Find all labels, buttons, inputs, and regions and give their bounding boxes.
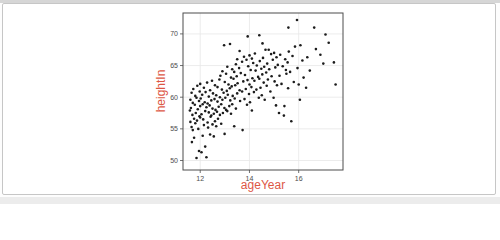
data-point: [248, 83, 251, 86]
data-point: [243, 98, 246, 101]
data-point: [334, 83, 337, 86]
data-point: [315, 48, 318, 51]
data-point: [195, 112, 198, 115]
data-point: [229, 87, 232, 90]
data-point: [293, 81, 296, 84]
data-point: [193, 136, 196, 139]
data-point: [277, 64, 280, 67]
data-point: [230, 112, 233, 115]
data-point: [221, 70, 224, 73]
data-point: [215, 125, 218, 128]
data-point: [210, 114, 213, 117]
data-point: [190, 126, 193, 129]
data-point: [219, 74, 222, 77]
data-point: [217, 117, 220, 120]
data-point: [216, 86, 219, 89]
data-point: [291, 55, 294, 58]
data-point: [254, 52, 257, 55]
x-axis-title: ageYear: [241, 178, 285, 192]
data-point: [253, 91, 256, 94]
data-point: [283, 114, 286, 117]
data-point: [276, 84, 279, 87]
data-point: [255, 88, 258, 91]
data-point: [210, 99, 213, 102]
data-point: [222, 112, 225, 115]
data-point: [272, 59, 275, 62]
data-point: [226, 110, 229, 113]
data-point: [278, 74, 281, 77]
data-point: [261, 73, 264, 76]
data-point: [238, 89, 241, 92]
data-point: [219, 96, 222, 99]
data-point: [264, 48, 267, 51]
data-point: [262, 57, 265, 60]
data-point: [269, 90, 272, 93]
data-point: [248, 54, 251, 57]
data-point: [206, 121, 209, 124]
data-point: [259, 60, 262, 63]
data-point: [223, 133, 226, 136]
data-point: [240, 72, 243, 75]
data-point: [198, 150, 201, 153]
data-point: [208, 104, 211, 107]
data-point: [200, 113, 203, 116]
data-point: [213, 135, 216, 138]
data-point: [206, 81, 209, 84]
data-point: [313, 26, 316, 29]
data-point: [231, 95, 234, 98]
data-point: [238, 50, 241, 53]
data-point: [233, 125, 236, 128]
y-axis-title: heightIn: [154, 70, 168, 113]
data-point: [286, 61, 289, 64]
data-point: [192, 129, 195, 132]
data-point: [309, 69, 312, 72]
y-tick-label: 70: [170, 30, 178, 37]
data-point: [284, 58, 287, 61]
data-point: [234, 84, 237, 87]
data-point: [235, 63, 238, 66]
data-point: [270, 53, 273, 56]
data-point: [227, 93, 230, 96]
data-point: [247, 65, 250, 68]
page-bottom-edge: [0, 197, 500, 204]
data-point: [305, 86, 308, 89]
data-point: [214, 84, 217, 87]
data-point: [245, 59, 248, 62]
data-point: [251, 57, 254, 60]
data-point: [280, 83, 283, 86]
data-point: [251, 77, 254, 80]
data-point: [204, 91, 207, 94]
data-point: [290, 120, 293, 123]
data-point: [201, 93, 204, 96]
data-point: [263, 66, 266, 69]
data-point: [211, 107, 214, 110]
data-point: [226, 90, 229, 93]
data-point: [224, 97, 227, 100]
data-point: [204, 145, 207, 148]
data-point: [216, 111, 219, 114]
data-point: [281, 65, 284, 68]
data-point: [251, 109, 254, 112]
data-point: [287, 87, 290, 90]
data-point: [199, 105, 202, 108]
data-point: [253, 79, 256, 82]
data-point: [241, 129, 244, 132]
data-point: [241, 60, 244, 63]
data-point: [230, 85, 233, 88]
x-tick-label: 16: [295, 175, 303, 182]
data-point: [297, 83, 300, 86]
data-point: [230, 76, 233, 79]
data-point: [288, 50, 291, 53]
y-tick-label: 55: [170, 125, 178, 132]
data-point: [195, 97, 198, 100]
data-point: [202, 118, 205, 121]
data-point: [203, 101, 206, 104]
data-point: [221, 98, 224, 101]
data-point: [294, 45, 297, 48]
data-point: [249, 101, 252, 104]
data-point: [201, 103, 204, 106]
data-point: [302, 76, 305, 79]
data-point: [267, 48, 270, 51]
data-point: [215, 94, 218, 97]
data-point: [246, 79, 249, 82]
